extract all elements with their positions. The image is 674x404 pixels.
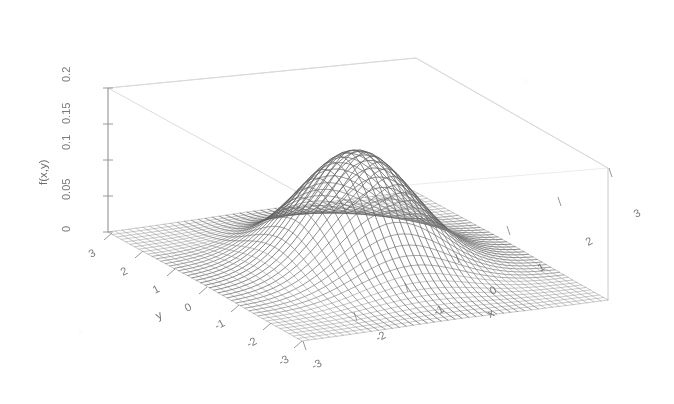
y-tick-1: 1 — [150, 282, 161, 295]
y-tick-2: 2 — [118, 264, 129, 277]
z-axis-label: f(x,y) — [37, 159, 49, 185]
x-axis — [303, 168, 612, 350]
y-tick-neg-1: -1 — [212, 317, 226, 332]
z-axis-tick-labels: 0 0.05 0.1 0.15 0.2 — [60, 67, 72, 232]
y-axis-label: y — [153, 308, 164, 321]
gaussian-mesh-surface — [108, 150, 608, 341]
x-tick-2: 2 — [583, 234, 594, 247]
x-tick-neg-3: -3 — [309, 357, 323, 372]
y-tick-3: 3 — [86, 246, 97, 259]
z-tick-0: 0 — [60, 226, 72, 232]
z-tick-0-05: 0.05 — [60, 179, 72, 200]
surface-plot-svg: 0 0.05 0.1 0.15 0.2 f(x,y) 3 2 1 — [0, 0, 674, 404]
z-axis — [103, 88, 113, 232]
x-axis-tick-labels: -3 -2 -1 0 1 2 3 — [309, 206, 642, 371]
z-tick-0-15: 0.15 — [60, 103, 72, 124]
y-tick-neg-2: -2 — [244, 335, 258, 350]
x-tick-3: 3 — [631, 206, 642, 219]
figure-canvas: 0 0.05 0.1 0.15 0.2 f(x,y) 3 2 1 — [0, 0, 674, 404]
y-tick-neg-3: -3 — [276, 353, 290, 368]
y-axis-tick-labels: 3 2 1 0 -1 -2 -3 — [86, 246, 290, 367]
z-tick-0-2: 0.2 — [60, 67, 72, 82]
z-tick-0-1: 0.1 — [60, 135, 72, 150]
y-tick-0: 0 — [182, 300, 193, 313]
